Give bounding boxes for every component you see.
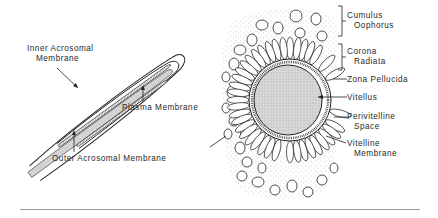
label-vitelline-membrane: Vitelline Membrane	[347, 139, 397, 158]
sperm-head	[22, 50, 193, 183]
label-perivitelline-space: Perivitelline Space	[347, 112, 395, 131]
label-line: Corona	[347, 47, 386, 57]
label-line: Radiata	[347, 57, 386, 67]
diagram-canvas	[0, 0, 438, 218]
bottom-rule	[20, 209, 420, 210]
label-line: Oophorus	[347, 21, 394, 31]
label-line: Perivitelline	[347, 112, 395, 122]
label-vitellus: Vitellus	[347, 93, 377, 103]
label-corona-radiata: Corona Radiata	[347, 47, 386, 66]
label-plasma-membrane: Plasma Membrane	[122, 103, 198, 113]
label-line: Inner Acrosomal	[27, 44, 94, 54]
ovum	[221, 9, 352, 200]
label-outer-acrosomal-membrane: Outer Acrosomal Membrane	[52, 154, 166, 164]
label-line: Membrane	[347, 149, 397, 159]
label-zona-pellucida: Zona Pellucida	[347, 75, 408, 85]
label-line: Vitelline	[347, 139, 397, 149]
label-line: Cumulus	[347, 11, 394, 21]
label-line: Space	[347, 122, 395, 132]
label-inner-acrosomal-membrane: Inner Acrosomal Membrane	[27, 44, 94, 63]
label-cumulus-oophorus: Cumulus Oophorus	[347, 11, 394, 30]
label-line: Membrane	[27, 54, 94, 64]
